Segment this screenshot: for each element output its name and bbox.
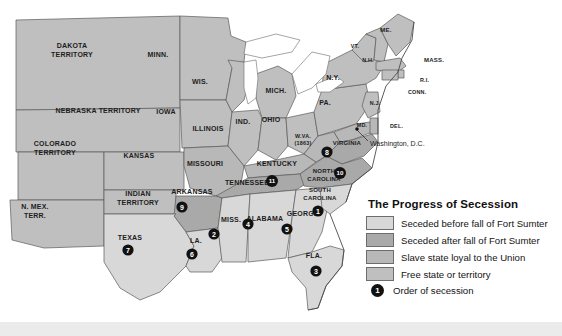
marker-louisiana[interactable]: 6: [186, 248, 197, 259]
legend-item-before[interactable]: Seceded before fall of Fort Sumter: [366, 216, 562, 230]
label-virginia: VIRGINIA: [333, 140, 362, 146]
marker-florida[interactable]: 3: [310, 265, 321, 276]
legend-swatch-after: [366, 233, 394, 247]
legend-item-free[interactable]: Free state or territory: [366, 267, 562, 281]
svg-text:10: 10: [337, 169, 344, 176]
svg-text:7: 7: [126, 247, 130, 254]
legend-swatch-free: [366, 267, 394, 281]
legend-item-after[interactable]: Seceded after fall of Fort Sumter: [366, 233, 562, 247]
region-indiana[interactable]: [258, 118, 288, 160]
top-margin: [0, 0, 562, 12]
label-ohio: OHIO: [262, 116, 281, 123]
legend-order-marker-icon: 1: [371, 284, 384, 297]
legend-label-loyal: Slave state loyal to the Union: [401, 252, 525, 263]
svg-text:6: 6: [190, 251, 194, 258]
region-rhode-island[interactable]: [398, 70, 404, 78]
legend-label-order: Order of secession: [393, 285, 474, 296]
legend-item-order[interactable]: 1 Order of secession: [371, 284, 562, 297]
svg-text:TERR.: TERR.: [24, 212, 46, 219]
legend-item-loyal[interactable]: Slave state loyal to the Union: [366, 250, 562, 264]
marker-virginia[interactable]: 8: [321, 146, 332, 157]
legend-swatch-loyal: [366, 250, 394, 264]
lake-superior: [244, 34, 300, 58]
marker-mississippi[interactable]: 2: [208, 228, 219, 239]
label-illinois: ILLINOIS: [192, 125, 223, 132]
svg-text:TERRITORY: TERRITORY: [117, 199, 159, 206]
legend-title: The Progress of Secession: [368, 198, 562, 210]
legend-label-free: Free state or territory: [401, 269, 491, 280]
svg-text:2: 2: [212, 231, 216, 238]
label-dakota-territory: DAKOTA: [57, 42, 88, 49]
svg-text:(1863): (1863): [295, 140, 312, 146]
label-tennessee: TENNESSEE: [225, 179, 269, 186]
label-colorado-territory: COLORADO: [34, 140, 77, 147]
legend-label-before: Seceded before fall of Fort Sumter: [401, 218, 548, 229]
label-wisconsin: WIS.: [192, 78, 208, 85]
label-west-virginia: W.VA.: [295, 133, 311, 139]
marker-georgia[interactable]: 5: [281, 223, 292, 234]
label-maryland: MD.: [357, 122, 368, 128]
svg-text:8: 8: [325, 149, 329, 156]
label-florida: FLA.: [306, 252, 322, 259]
label-kentucky: KENTUCKY: [257, 160, 298, 167]
marker-texas[interactable]: 7: [122, 244, 133, 255]
label-south-carolina: SOUTH: [309, 187, 331, 193]
svg-text:1: 1: [316, 208, 320, 215]
label-louisiana: LA.: [190, 237, 202, 244]
label-arkansas: ARKANSAS: [171, 188, 212, 195]
bottom-margin-bar: [0, 322, 562, 336]
marker-arkansas[interactable]: 9: [176, 201, 187, 212]
svg-text:TERRITORY: TERRITORY: [51, 51, 93, 58]
label-new-york: N.Y.: [326, 74, 340, 81]
label-new-mexico-territory: N. MEX.: [21, 203, 48, 210]
label-texas: TEXAS: [118, 234, 142, 241]
label-north-carolina: NORTH: [313, 168, 335, 174]
label-missouri: MISSOURI: [187, 160, 223, 167]
label-michigan: MICH.: [266, 87, 287, 94]
label-massachusetts: MASS.: [424, 57, 444, 63]
label-mississippi: MISS.: [221, 216, 241, 223]
label-pennsylvania: PA.: [319, 99, 331, 106]
svg-text:3: 3: [314, 268, 318, 275]
region-texas[interactable]: [104, 214, 194, 300]
label-new-hampshire: N.H.: [362, 57, 374, 63]
label-vermont: VT.: [351, 43, 360, 49]
label-connecticut: CONN.: [408, 89, 427, 95]
region-iowa[interactable]: [180, 100, 232, 148]
label-washington-dc: Washington, D.C.: [370, 140, 425, 148]
label-delaware: DEL.: [390, 123, 403, 129]
label-kansas: KANSAS: [124, 152, 155, 159]
region-dakota-territory[interactable]: [16, 16, 180, 110]
svg-text:11: 11: [269, 177, 276, 184]
label-new-jersey: N.J.: [370, 100, 381, 106]
marker-tennessee[interactable]: 11: [266, 175, 278, 187]
region-delaware[interactable]: [370, 118, 378, 134]
marker-south-carolina[interactable]: 1: [312, 205, 323, 216]
dc-city-dot: [355, 127, 359, 131]
secession-map-figure: DAKOTA TERRITORY MINN. WIS. MICH. NEBRAS…: [0, 0, 562, 336]
svg-text:5: 5: [285, 226, 289, 233]
label-indiana: IND.: [236, 118, 251, 125]
svg-text:9: 9: [180, 204, 184, 211]
svg-text:CAROLINA: CAROLINA: [303, 195, 337, 201]
legend-swatch-before: [366, 216, 394, 230]
marker-alabama[interactable]: 4: [242, 218, 253, 229]
lake-michigan: [244, 60, 258, 104]
label-iowa: IOWA: [156, 108, 175, 115]
label-nebraska-territory: NEBRASKA TERRITORY: [55, 107, 140, 114]
legend-panel: The Progress of Secession Seceded before…: [366, 198, 562, 322]
marker-north-carolina[interactable]: 10: [334, 167, 346, 179]
label-minnesota: MINN.: [148, 51, 169, 58]
svg-text:4: 4: [246, 221, 250, 228]
legend-label-after: Seceded after fall of Fort Sumter: [401, 235, 540, 246]
label-rhode-island: R.I.: [420, 77, 429, 83]
region-colorado-territory[interactable]: [18, 152, 104, 200]
svg-text:TERRITORY: TERRITORY: [34, 149, 76, 156]
label-indian-territory: INDIAN: [125, 190, 150, 197]
label-maine: ME.: [380, 27, 391, 33]
